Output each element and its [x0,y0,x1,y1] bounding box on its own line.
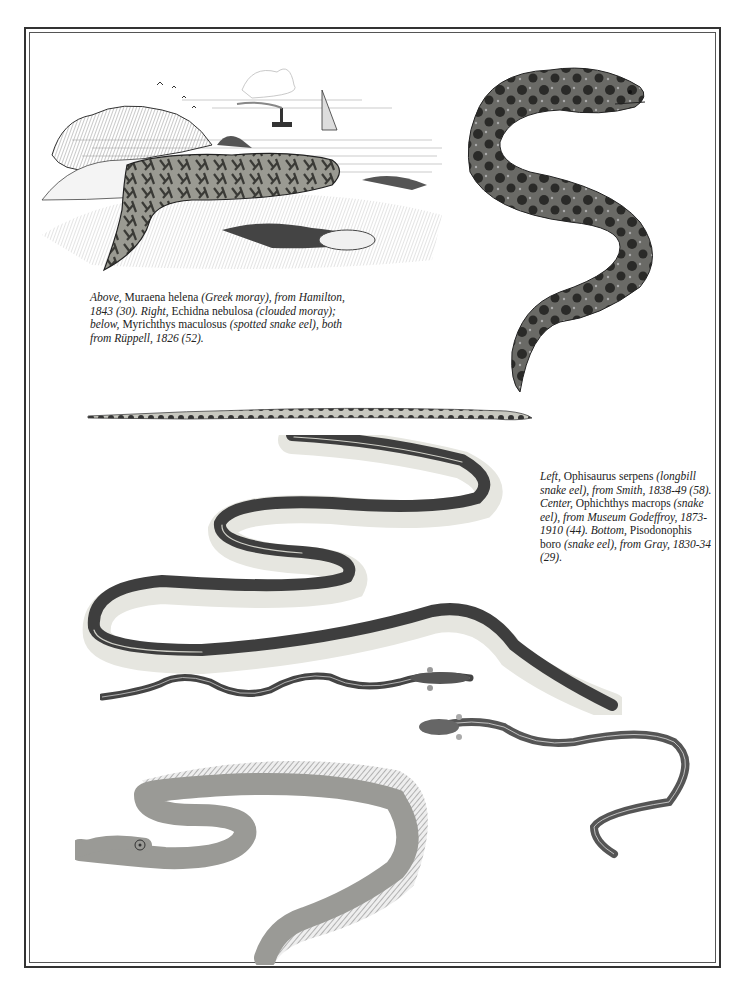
caption-label: Above, [90,291,122,303]
greek-moray-illustration [32,60,452,275]
species-name: Myrichthys maculosus [120,318,230,330]
species-name: Echidna nebulosa [169,305,256,317]
snake-eel-macrops-illustration [100,662,480,707]
finned-eel-illustration [75,760,485,965]
caption-top-left: Above, Muraena helena (Greek moray), fro… [90,291,350,345]
spotted-snake-eel-illustration [86,403,536,427]
species-name: Muraena helena [122,291,202,303]
clouded-moray-illustration [450,62,670,397]
